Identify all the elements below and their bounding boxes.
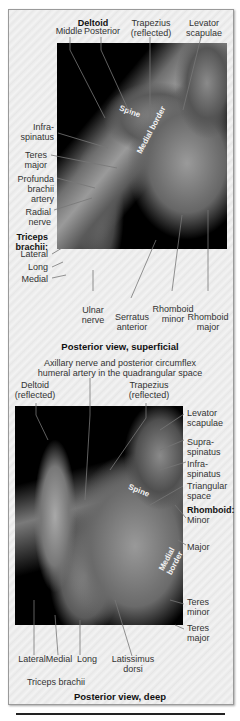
- label-triangular-space: Triangularspace: [187, 481, 237, 501]
- label-triceps-brachii-deep: Triceps brachii: [26, 677, 86, 687]
- label-levator-scapulae-deep: Levatorscapulae: [187, 408, 231, 428]
- label-rhomboid-major-deep: Major: [187, 542, 231, 552]
- label-rhomboid-minor-deep: Minor: [187, 515, 231, 525]
- label-rhomboid-heading: Rhomboid:: [187, 505, 237, 515]
- label-teres-minor: Teresminor: [187, 597, 231, 617]
- divider-rule: [16, 713, 225, 715]
- label-supraspinatus: Supra-spinatus: [187, 437, 231, 457]
- label-triceps-medial-deep: Medial: [44, 654, 74, 664]
- caption-deep: Posterior view, deep: [8, 691, 232, 702]
- label-triceps-long-deep: Long: [74, 654, 100, 664]
- label-infraspinatus-deep: Infra-spinatus: [187, 459, 231, 479]
- label-latissimus-dorsi: Latissimusdorsi: [110, 654, 156, 674]
- label-teres-major-deep: Teresmajor: [187, 623, 231, 643]
